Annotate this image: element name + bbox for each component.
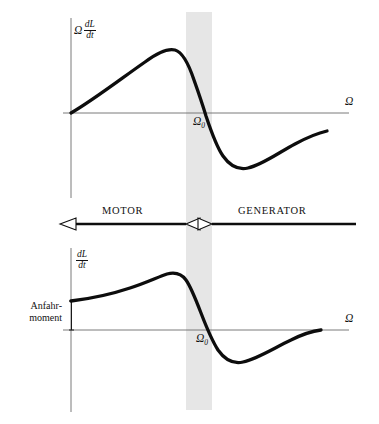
bottom-y-axis-fraction: dLdt <box>76 250 88 271</box>
generator-region-label: GENERATOR <box>238 206 307 217</box>
bottom-x-axis-label: Ω <box>345 313 353 325</box>
motor-region-label: MOTOR <box>102 206 143 217</box>
starting-torque-bracket <box>69 301 74 330</box>
starting-torque-label: Anfahr- moment <box>4 300 62 324</box>
top-x-axis-label: Ω <box>345 96 353 108</box>
top-y-axis-denominator: dt <box>84 31 96 41</box>
motor-left-arrowhead-icon <box>60 218 76 230</box>
bottom-omega-zero-label: Ω0 <box>196 333 208 347</box>
figure-graphics <box>0 0 379 424</box>
top-omega-zero-subscript: 0 <box>201 121 205 130</box>
starting-torque-line1: Anfahr- <box>4 300 62 312</box>
bottom-y-axis-label: dLdt <box>76 250 88 271</box>
top-omega-zero-label: Ω0 <box>193 116 205 130</box>
bottom-y-axis-denominator: dt <box>76 261 88 271</box>
torque-speed-figure: ΩdLdt Ω Ω0 MOTOR GENERATOR dLdt Anfahr- … <box>0 0 379 424</box>
top-y-axis-label: ΩdLdt <box>74 20 96 41</box>
top-y-axis-omega: Ω <box>74 24 82 36</box>
bottom-omega-zero-subscript: 0 <box>204 338 208 347</box>
top-y-axis-fraction: dLdt <box>84 20 96 41</box>
starting-torque-line2: moment <box>4 312 62 324</box>
